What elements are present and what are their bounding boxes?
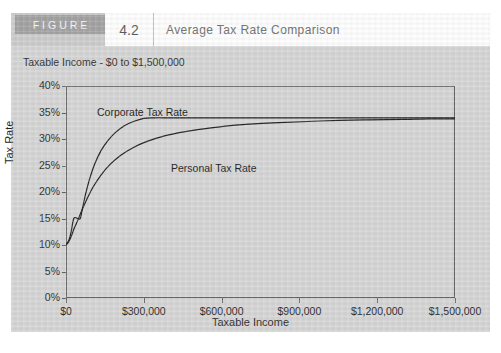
- figure-header: FIGURE 4.2 Average Tax Rate Comparison: [11, 13, 490, 46]
- y-axis-title: Tax Rate: [3, 121, 15, 164]
- x-tick-label: $1,500,000: [410, 305, 500, 317]
- figure-number: 4.2: [119, 22, 138, 38]
- y-tick-label: 25%: [20, 159, 60, 171]
- figure-title-box: Average Tax Rate Comparison: [153, 13, 491, 46]
- x-tick-mark: [455, 298, 456, 303]
- series-label-corporate: Corporate Tax Rate: [97, 106, 188, 118]
- x-tick-mark: [144, 298, 145, 303]
- chart-body: Taxable Income - $0 to $1,500,000 Tax Ra…: [11, 46, 490, 332]
- y-tick-label: 10%: [20, 238, 60, 250]
- x-tick-label: $300,000: [99, 305, 189, 317]
- y-tick-label: 5%: [20, 265, 60, 277]
- y-tick-label: 15%: [20, 212, 60, 224]
- chart-subtitle: Taxable Income - $0 to $1,500,000: [23, 56, 185, 68]
- x-tick-label: $1,200,000: [332, 305, 422, 317]
- figure-word-band: FIGURE: [15, 15, 105, 34]
- figure-title: Average Tax Rate Comparison: [166, 23, 340, 37]
- x-axis-title: Taxable Income: [11, 316, 490, 328]
- y-tick-label: 20%: [20, 185, 60, 197]
- x-tick-label: $0: [21, 305, 111, 317]
- x-tick-label: $600,000: [177, 305, 267, 317]
- line-personal-tax-rate: [66, 119, 455, 245]
- figure-word: FIGURE: [30, 19, 91, 31]
- y-tick-label: 0%: [20, 291, 60, 303]
- line-corporate-tax-rate: [66, 118, 455, 245]
- x-tick-mark: [66, 298, 67, 303]
- figure-card: FIGURE 4.2 Average Tax Rate Comparison T…: [11, 13, 490, 332]
- x-tick-mark: [299, 298, 300, 303]
- y-tick-label: 30%: [20, 132, 60, 144]
- x-tick-mark: [222, 298, 223, 303]
- figure-number-box: 4.2: [105, 13, 153, 46]
- x-tick-label: $900,000: [254, 305, 344, 317]
- y-tick-label: 35%: [20, 106, 60, 118]
- series-label-personal: Personal Tax Rate: [171, 162, 257, 174]
- x-tick-mark: [377, 298, 378, 303]
- y-tick-label: 40%: [20, 79, 60, 91]
